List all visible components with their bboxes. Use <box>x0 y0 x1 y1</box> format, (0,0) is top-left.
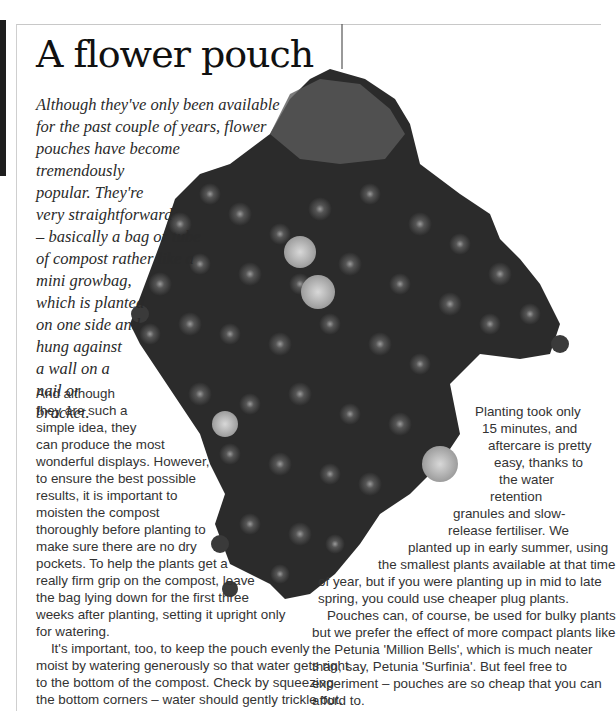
intro-line: for the past couple of years, flower <box>36 117 267 137</box>
body-line: aftercare is pretty <box>488 438 591 453</box>
body-line: to the bottom of the compost. Check by s… <box>36 675 334 690</box>
intro-line: popular. They're <box>36 183 143 203</box>
body-line: the bottom corners – water should gently… <box>36 692 343 707</box>
body-line: granules and slow- <box>453 506 565 521</box>
body-line: results, it is important to <box>36 488 177 503</box>
intro-line: a wall on a <box>36 359 110 379</box>
body-line: for watering. <box>36 624 110 639</box>
intro-line: of compost rather like a <box>36 249 194 269</box>
body-line: weeks after planting, setting it upright… <box>36 607 285 622</box>
body-line: make sure there are no dry <box>36 539 197 554</box>
body-line: afford to. <box>312 693 365 708</box>
body-line: the Petunia 'Million Bells', which is mu… <box>312 642 593 657</box>
body-line: Planting took only <box>475 404 581 419</box>
body-line: but we prefer the effect of more compact… <box>312 625 615 640</box>
body-line: wonderful displays. However, <box>36 454 209 469</box>
body-line: pockets. To help the plants get a <box>36 556 228 571</box>
body-line: planted up in early summer, using <box>408 540 608 555</box>
body-line: easy, thanks to <box>494 455 583 470</box>
intro-line: on one side and <box>36 315 140 335</box>
body-line: than, say, Petunia 'Surfinia'. But feel … <box>312 659 567 674</box>
body-line: experiment – pouches are so cheap that y… <box>312 676 602 691</box>
body-line: Pouches can, of course, be used for bulk… <box>312 608 616 623</box>
body-line: can produce the most <box>36 437 165 452</box>
body-line: the smallest plants available at that ti… <box>378 557 615 572</box>
intro-line: Although they've only been available <box>36 95 280 115</box>
intro-line: hung against <box>36 337 122 357</box>
body-line: And although <box>36 386 115 401</box>
body-line: to ensure the best possible <box>36 471 196 486</box>
intro-line: very straightforward <box>36 205 172 225</box>
body-line: It's important, too, to keep the pouch e… <box>36 641 310 656</box>
intro-line: pouches have become <box>36 139 180 159</box>
body-line: 15 minutes, and <box>482 421 577 436</box>
body-line: really firm grip on the compost, leave <box>36 573 255 588</box>
body-line: they are such a <box>36 403 128 418</box>
adjacent-page-edge <box>0 20 6 176</box>
intro-line: tremendously <box>36 161 124 181</box>
body-line: moist by watering generously so that wat… <box>36 658 349 673</box>
body-line: the bag lying down for the first three <box>36 590 249 605</box>
body-line: spring, you could use cheaper plug plant… <box>318 591 569 606</box>
body-line: release fertiliser. We <box>448 523 569 538</box>
body-line: simple idea, they <box>36 420 136 435</box>
intro-line: – basically a bag or tube <box>36 227 201 247</box>
body-line: the water <box>499 472 554 487</box>
intro-line: mini growbag, <box>36 271 132 291</box>
body-line: retention <box>490 489 542 504</box>
body-line: moisten the compost <box>36 505 160 520</box>
page-title: A flower pouch <box>36 32 313 76</box>
body-line: thoroughly before planting to <box>36 522 206 537</box>
body-line: of year, but if you were planting up in … <box>318 574 602 589</box>
intro-line: which is planted <box>36 293 144 313</box>
